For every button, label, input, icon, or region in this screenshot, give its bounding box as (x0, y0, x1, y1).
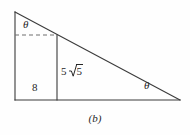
angle-theta-right-label: θ (144, 80, 149, 91)
height-length-label: 5 5 (61, 64, 83, 77)
height-radicand: 5 (76, 64, 84, 77)
figure-caption: (b) (0, 112, 190, 124)
height-coefficient: 5 (61, 64, 67, 77)
radical-group: 5 (69, 64, 84, 77)
base-length-label: 8 (32, 82, 38, 93)
angle-theta-top-label: θ (23, 19, 28, 30)
triangle-hypotenuse (15, 12, 180, 100)
figure-container: θ θ 8 5 5 (b) (0, 0, 190, 135)
